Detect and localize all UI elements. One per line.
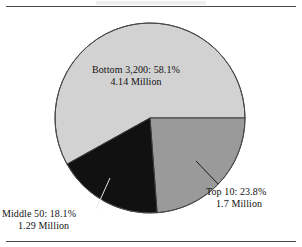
slice-label-bottom-3200: Bottom 3,200: 58.1% 4.14 Million <box>71 64 201 88</box>
slice-label-bottom-3200-line1: Bottom 3,200: 58.1% <box>92 64 180 75</box>
slice-label-top-10-line1: Top 10: 23.8% <box>206 186 266 197</box>
slice-label-middle-50-line1: Middle 50: 18.1% <box>2 208 76 219</box>
slice-label-top-10: Top 10: 23.8% 1.7 Million <box>206 186 300 210</box>
slice-label-middle-50: Middle 50: 18.1% 1.29 Million <box>2 208 114 232</box>
pie-chart-figure: Bottom 3,200: 58.1% 4.14 Million Top 10:… <box>0 0 302 247</box>
slice-label-top-10-line2: 1.7 Million <box>206 198 300 210</box>
slice-label-middle-50-line2: 1.29 Million <box>2 220 114 232</box>
slice-label-bottom-3200-line2: 4.14 Million <box>71 76 201 88</box>
